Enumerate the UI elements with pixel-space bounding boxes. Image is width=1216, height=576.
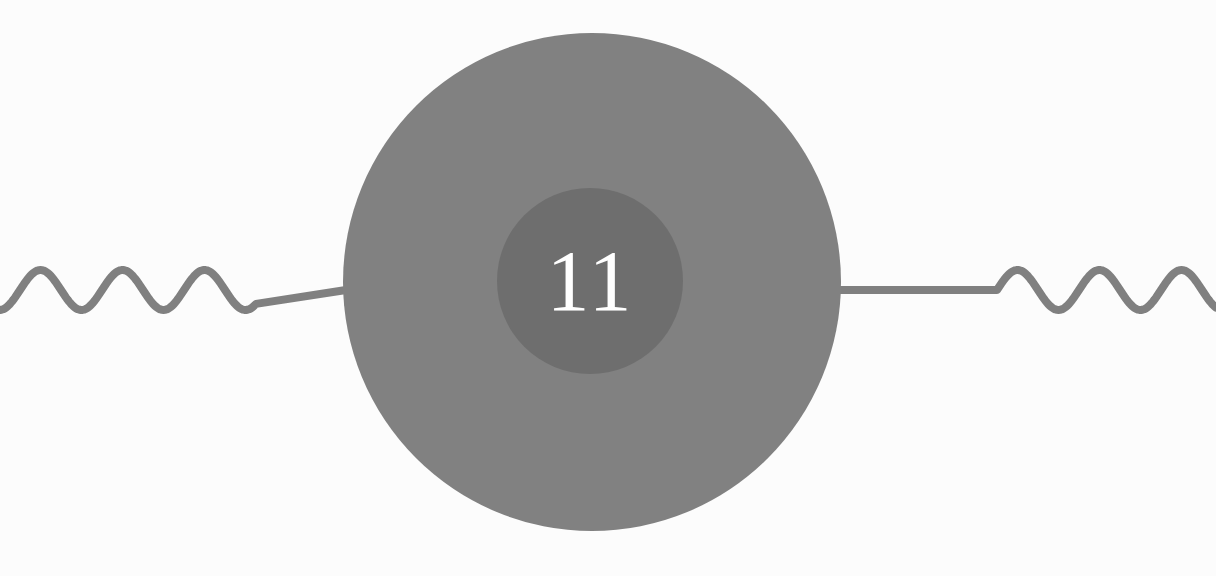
abstract-graphic: 11 [0, 0, 1216, 576]
circle-number-label: 11 [547, 233, 634, 329]
graphic-canvas: 11 [0, 0, 1216, 576]
